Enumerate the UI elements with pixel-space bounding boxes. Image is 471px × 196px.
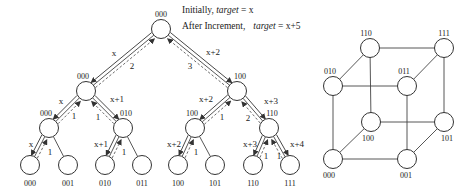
hypercube-node: 010 xyxy=(324,67,343,96)
hypercube-node: 001 xyxy=(398,150,417,181)
tree-node: 010 xyxy=(96,156,115,189)
node-label: 111 xyxy=(438,29,449,38)
request-value-label: x xyxy=(29,139,34,149)
request-value-label: x+2 xyxy=(199,94,213,104)
node-label: 110 xyxy=(247,179,259,188)
node-label: 011 xyxy=(398,67,410,76)
node-label: 100 xyxy=(186,109,198,118)
hypercube-node: 000 xyxy=(323,150,343,181)
hypercube-nodes: 000001010011100101110111 xyxy=(323,29,454,180)
node-label: 101 xyxy=(441,134,453,143)
reply-count-label: 1 xyxy=(96,112,101,122)
reply-count-label: 1 xyxy=(264,151,269,161)
tree-node: 011 xyxy=(133,156,152,189)
tree-edge xyxy=(127,136,137,156)
node-label: 100 xyxy=(234,72,246,81)
tree-edge: x2 xyxy=(91,33,154,88)
reply-count-label: 3 xyxy=(188,61,193,71)
reply-count-label: 1 xyxy=(72,111,77,121)
tree-node: 000 xyxy=(77,72,96,101)
request-value-label: x+3 xyxy=(243,139,258,149)
node-label: 010 xyxy=(324,67,336,76)
node-label: 111 xyxy=(284,179,295,188)
tree-node: 110 xyxy=(244,156,263,189)
hypercube-node: 111 xyxy=(435,29,454,58)
tree-node: 111 xyxy=(281,156,300,189)
hypercube-node: 011 xyxy=(398,67,417,96)
hypercube-node: 100 xyxy=(362,113,381,144)
reply-count-label: 1 xyxy=(194,147,199,157)
tree-node: 000 xyxy=(152,10,171,39)
node-label: 000 xyxy=(24,179,36,188)
tree-node: 000 xyxy=(40,109,59,138)
tree-edge: x1 xyxy=(53,95,80,123)
request-value-label: x+1 xyxy=(94,139,108,149)
request-value-label: x+4 xyxy=(290,139,305,149)
reply-count-label: 1 xyxy=(220,112,225,122)
tree-node: 100 xyxy=(228,72,247,101)
tree-edge: x1 xyxy=(29,135,53,158)
tree-node: 001 xyxy=(59,156,78,189)
caption: Initially, target = x After Increment,ta… xyxy=(182,5,301,31)
tree-node: 110 xyxy=(260,109,279,138)
hypercube-edges xyxy=(333,48,444,159)
node-label: 001 xyxy=(62,179,74,188)
hypercube-node: 101 xyxy=(435,113,454,144)
node-label: 010 xyxy=(99,179,111,188)
tree-edge: x+11 xyxy=(94,135,126,158)
hypercube-edge xyxy=(370,48,371,122)
node-label: 110 xyxy=(360,29,372,38)
hypercube-node: 110 xyxy=(360,29,379,58)
combining-tree-diagram: x2x+23x1x+11x+21x+32x1x+11x+21x+31x+41 0… xyxy=(0,0,471,196)
tree-edge xyxy=(200,136,211,156)
reply-count-label: 1 xyxy=(48,147,53,157)
caption-line-2: After Increment,target = x+5 xyxy=(182,21,301,31)
node-label: 000 xyxy=(155,10,167,19)
request-value-label: x+3 xyxy=(264,96,279,106)
node-label: 000 xyxy=(323,171,335,180)
tree-node: 010 xyxy=(114,109,133,138)
request-value-label: x xyxy=(59,96,64,106)
tree-edge: x+21 xyxy=(199,94,231,124)
reply-count-label: 1 xyxy=(122,147,127,157)
reply-count-label: 1 xyxy=(277,151,282,161)
request-value-label: x+2 xyxy=(206,47,220,57)
request-value-label: x+1 xyxy=(110,94,124,104)
node-label: 100 xyxy=(362,134,374,143)
node-label: 110 xyxy=(266,109,278,118)
tree-edge xyxy=(53,136,63,156)
tree-edge: x+23 xyxy=(168,33,232,88)
node-label: 100 xyxy=(172,179,184,188)
node-label: 010 xyxy=(120,109,132,118)
node-label: 101 xyxy=(209,179,221,188)
request-value-label: x xyxy=(112,48,117,58)
tree-edge: x+21 xyxy=(167,135,198,157)
node-label: 001 xyxy=(400,171,412,180)
tree-node: 100 xyxy=(186,109,205,138)
tree-edges: x2x+23x1x+11x+21x+32x1x+11x+21x+31x+41 xyxy=(29,33,305,161)
tree-node: 000 xyxy=(21,156,40,189)
reply-count-label: 2 xyxy=(130,61,135,71)
node-label: 011 xyxy=(136,179,148,188)
request-value-label: x+2 xyxy=(167,139,181,149)
node-label: 000 xyxy=(77,72,89,81)
reply-count-label: 2 xyxy=(246,113,251,123)
tree-node: 101 xyxy=(206,156,225,189)
caption-line-1: Initially, target = x xyxy=(182,5,254,15)
tree-node: 100 xyxy=(169,156,188,189)
node-label: 000 xyxy=(40,109,52,118)
